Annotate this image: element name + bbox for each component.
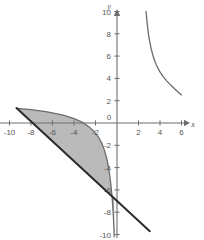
x-tick-label: -4 <box>70 128 78 137</box>
coordinate-plot: -10-8-6-4-20246-10-8-6-4-2246810xy <box>0 0 204 239</box>
y-axis-arrow <box>114 9 120 16</box>
y-tick-label: -8 <box>104 208 112 217</box>
x-tick-label: -8 <box>27 128 35 137</box>
x-axis-arrow <box>184 120 190 126</box>
curve-right-branch <box>146 12 181 95</box>
y-tick-label: 4 <box>107 74 112 83</box>
y-tick-label: 8 <box>107 30 112 39</box>
x-tick-label: 6 <box>179 128 184 137</box>
graph-canvas: -10-8-6-4-20246-10-8-6-4-2246810xy <box>0 0 204 239</box>
y-tick-label: -10 <box>99 231 111 240</box>
x-tick-label: 4 <box>158 128 163 137</box>
x-tick-label: -2 <box>92 128 100 137</box>
x-tick-label: -10 <box>4 128 16 137</box>
x-tick-label: -6 <box>49 128 57 137</box>
x-tick-label: 2 <box>136 128 141 137</box>
x-axis-title: x <box>190 120 195 129</box>
y-tick-label: -2 <box>104 141 112 150</box>
y-tick-label: 6 <box>107 52 112 61</box>
y-axis-title: y <box>106 2 111 11</box>
x-tick-label-0: 0 <box>107 113 112 122</box>
y-tick-label: 2 <box>107 97 112 106</box>
